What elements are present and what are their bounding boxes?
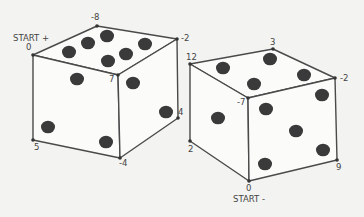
pip-dot [159, 106, 173, 119]
pip-dot [101, 55, 115, 68]
vertex-label: 9 [336, 162, 341, 172]
dice-diagram: 0-8-275-44START +123-2-7209START - [0, 0, 364, 217]
start-label: START + [13, 33, 49, 43]
pip-dot [81, 37, 95, 50]
vertex-label: 7 [109, 74, 114, 84]
pip-dot [138, 38, 152, 51]
pip-dot [259, 103, 273, 116]
vertex-label: 0 [26, 42, 31, 52]
pip-dot [258, 158, 272, 171]
pip-dot [247, 78, 261, 91]
pip-dot [62, 46, 76, 59]
vertex-point [188, 62, 192, 66]
vertex-label: 12 [186, 52, 197, 62]
vertex-point [116, 73, 120, 77]
pip-dot [41, 121, 55, 134]
vertex-label: -7 [237, 97, 245, 107]
vertex-point [271, 47, 275, 51]
start-label: START - [233, 194, 265, 204]
vertex-label: -2 [340, 73, 348, 83]
vertex-point [188, 139, 192, 143]
pip-dot [211, 112, 225, 125]
vertex-point [31, 53, 35, 57]
pip-dot [289, 125, 303, 138]
pip-dot [297, 69, 311, 82]
vertex-label: -8 [91, 12, 99, 22]
vertex-point [95, 24, 99, 28]
pip-dot [316, 144, 330, 157]
vertex-label: -2 [181, 33, 189, 43]
vertex-point [333, 76, 337, 80]
pip-dot [126, 77, 140, 90]
pip-dot [100, 30, 114, 43]
vertex-label: 0 [246, 183, 251, 193]
vertex-point [246, 96, 250, 100]
pip-dot [315, 89, 329, 102]
vertex-label: 4 [178, 107, 183, 117]
vertex-label: 5 [34, 142, 39, 152]
vertex-label: 3 [270, 37, 275, 47]
pip-dot [216, 62, 230, 75]
vertex-label: 2 [188, 144, 193, 154]
pip-dot [70, 73, 84, 86]
pip-dot [99, 136, 113, 149]
die-left: 0-8-275-44START + [13, 12, 189, 168]
pip-dot [119, 48, 133, 61]
pip-dot [263, 53, 277, 66]
vertex-point [175, 37, 179, 41]
vertex-label: -4 [119, 158, 127, 168]
die-right: 123-2-7209START - [186, 37, 348, 204]
